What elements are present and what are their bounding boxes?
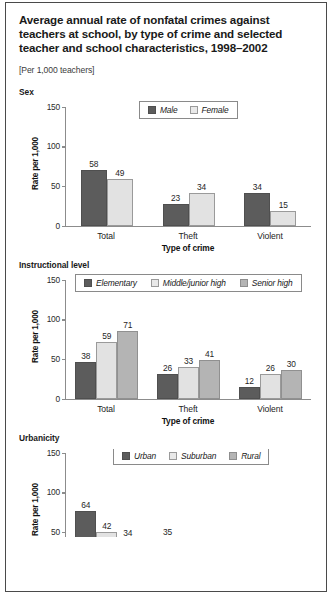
bar[interactable]: 41: [199, 360, 220, 399]
y-tick-label: 100: [26, 314, 66, 324]
legend-swatch-icon: [169, 452, 177, 460]
panel-sex: Sex Male Female Rate per 1,000: [19, 87, 327, 256]
plot-area-urbanicity: 150 100 50 0 64 42 34 35: [65, 453, 311, 537]
bar-value-label: 64: [81, 500, 90, 510]
bar-value-label: 26: [163, 363, 172, 373]
bar[interactable]: 64: [75, 511, 96, 537]
legend-item-elementary[interactable]: Elementary: [84, 278, 137, 288]
legend-label: Suburban: [181, 451, 216, 461]
bar-value-label: 58: [89, 159, 98, 169]
figure-title: Average annual rate of nonfatal crimes a…: [19, 13, 311, 56]
bar[interactable]: 59: [96, 342, 117, 398]
panel-instructional-level: Instructional level Elementary Middle/ju…: [19, 260, 327, 429]
bar-group-theft: 26 33 41: [148, 280, 230, 399]
legend-swatch-icon: [84, 279, 92, 287]
x-tick-label: Violent: [229, 404, 311, 414]
legend-swatch-icon: [148, 106, 156, 114]
bar[interactable]: 34: [244, 193, 270, 225]
bar-group-total: 64 42 34: [66, 453, 148, 537]
bar-groups: 38 59 71 26 33 41 12 26: [66, 280, 311, 399]
bar[interactable]: 71: [117, 331, 138, 399]
y-tick-label: 100: [26, 141, 66, 151]
legend-swatch-icon: [151, 279, 159, 287]
bar[interactable]: 15: [270, 211, 296, 225]
bar-groups: 64 42 34 35: [66, 453, 311, 537]
bar[interactable]: 12: [239, 387, 260, 398]
bar-group-violent: 12 26 30: [229, 280, 311, 399]
bar[interactable]: 26: [260, 374, 281, 399]
bar-group-theft: 23 34: [148, 107, 230, 226]
bar-value-label: 35: [163, 527, 172, 536]
legend-label: Urban: [134, 451, 156, 461]
legend-label: Male: [160, 105, 178, 115]
x-axis-title: Type of crime: [65, 243, 311, 253]
bar[interactable]: 42: [96, 532, 117, 537]
figure-frame: Average annual rate of nonfatal crimes a…: [5, 2, 327, 592]
legend-sex: Male Female: [139, 101, 238, 119]
bar-value-label: 34: [253, 182, 262, 192]
legend-instructional-level: Elementary Middle/junior high Senior hig…: [75, 274, 302, 292]
legend-urbanicity: Urban Suburban Rural: [113, 449, 269, 465]
bar[interactable]: 58: [81, 170, 107, 225]
bar-group-total: 58 49: [66, 107, 148, 226]
bar-value-label: 12: [245, 376, 254, 386]
bar[interactable]: 26: [157, 374, 178, 399]
legend-item-female[interactable]: Female: [190, 105, 229, 115]
panel-heading-sex: Sex: [19, 87, 327, 97]
y-tick-label: 100: [26, 487, 66, 497]
bar-group-violent: 34 15: [229, 107, 311, 226]
x-axis-title: Type of crime: [65, 416, 311, 426]
legend-item-senior-high[interactable]: Senior high: [240, 278, 293, 288]
y-tick-label: 0: [26, 394, 66, 404]
bar-group-violent: [229, 453, 311, 537]
x-tick-labels: Total Theft Violent: [65, 231, 311, 241]
bar-value-label: 41: [205, 349, 214, 359]
bar-group-theft: 35: [148, 453, 230, 537]
legend-item-suburban[interactable]: Suburban: [169, 451, 216, 461]
y-tick-label: 150: [26, 102, 66, 112]
legend-item-rural[interactable]: Rural: [229, 451, 260, 461]
legend-item-male[interactable]: Male: [148, 105, 178, 115]
legend-item-urban[interactable]: Urban: [122, 451, 156, 461]
chart-sex: Male Female Rate per 1,000 150 100 50 0: [19, 103, 319, 256]
x-tick-label: Total: [65, 404, 147, 414]
legend-swatch-icon: [240, 279, 248, 287]
y-tick-label: 150: [26, 449, 66, 458]
bar-value-label: 34: [197, 182, 206, 192]
bar[interactable]: 38: [75, 362, 96, 398]
bar[interactable]: 33: [178, 367, 199, 398]
y-tick-label: 50: [26, 527, 66, 537]
bar-value-label: 49: [115, 168, 124, 178]
bar-groups: 58 49 23 34 34 15: [66, 107, 311, 226]
chart-urbanicity: Urban Suburban Rural Rate per 1,000: [19, 449, 319, 537]
bar-value-label: 23: [171, 193, 180, 203]
panel-urbanicity: Urbanicity Urban Suburban R: [19, 433, 327, 537]
x-tick-label: Theft: [147, 404, 229, 414]
plot-area-sex: 150 100 50 0 58 49 23 34: [65, 107, 311, 227]
x-tick-label: Total: [65, 231, 147, 241]
panel-heading-urbanicity: Urbanicity: [19, 433, 327, 443]
y-tick-label: 0: [26, 221, 66, 231]
bar-value-label: 38: [81, 351, 90, 361]
bar[interactable]: 23: [163, 204, 189, 226]
bar-value-label: 71: [123, 320, 132, 330]
bar-value-label: 30: [287, 359, 296, 369]
legend-label: Middle/junior high: [163, 278, 226, 288]
units-note: [Per 1,000 teachers]: [19, 65, 327, 75]
legend-label: Rural: [241, 451, 260, 461]
chart-instructional-level: Elementary Middle/junior high Senior hig…: [19, 276, 319, 429]
bar-value-label: 34: [123, 528, 132, 536]
bar-group-total: 38 59 71: [66, 280, 148, 399]
legend-swatch-icon: [122, 452, 130, 460]
panel-heading-instructional-level: Instructional level: [19, 260, 327, 270]
y-tick-label: 50: [26, 354, 66, 364]
x-tick-labels: Total Theft Violent: [65, 404, 311, 414]
legend-item-middle-junior-high[interactable]: Middle/junior high: [151, 278, 226, 288]
bar[interactable]: 34: [189, 193, 215, 225]
legend-label: Female: [202, 105, 229, 115]
y-tick-label: 150: [26, 275, 66, 285]
page-root: Average annual rate of nonfatal crimes a…: [0, 0, 332, 594]
bar[interactable]: 49: [107, 179, 133, 226]
bar[interactable]: 30: [281, 370, 302, 399]
bar-value-label: 33: [184, 356, 193, 366]
